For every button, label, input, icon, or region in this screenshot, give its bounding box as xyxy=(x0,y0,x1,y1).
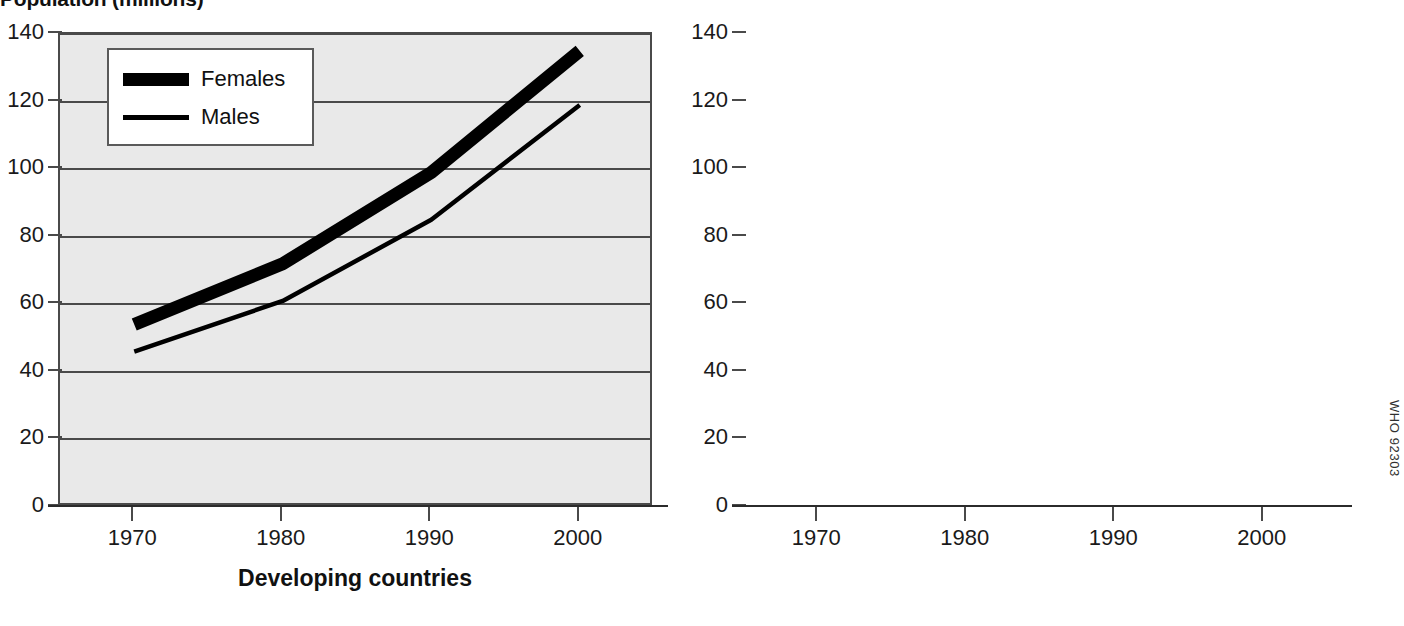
y-tick-mark xyxy=(732,234,746,236)
y-tick-mark xyxy=(732,369,746,371)
y-tick-label: 140 xyxy=(680,21,728,43)
y-tick-label: 80 xyxy=(680,224,728,246)
y-tick-label: 80 xyxy=(0,224,44,246)
x-tick-label: 1970 xyxy=(108,527,157,549)
x-tick-mark xyxy=(577,507,579,521)
y-tick-mark xyxy=(48,99,62,101)
y-tick-mark xyxy=(732,166,746,168)
x-tick-label: 1980 xyxy=(256,527,305,549)
x-tick-mark xyxy=(428,507,430,521)
y-tick-label: 120 xyxy=(0,89,44,111)
y-tick-label: 20 xyxy=(680,426,728,448)
legend-label-males: Males xyxy=(201,106,260,128)
x-tick-label: 2000 xyxy=(553,527,602,549)
y-tick-mark xyxy=(48,31,62,33)
y-tick-mark xyxy=(48,369,62,371)
x-axis-line xyxy=(732,505,1352,507)
y-tick-mark xyxy=(48,301,62,303)
y-tick-label: 40 xyxy=(680,359,728,381)
y-tick-label: 40 xyxy=(0,359,44,381)
y-tick-label: 140 xyxy=(0,21,44,43)
x-tick-mark xyxy=(131,507,133,521)
legend-item-females: Females xyxy=(123,64,285,94)
y-tick-mark xyxy=(732,31,746,33)
legend-item-males: Males xyxy=(123,102,260,132)
y-tick-label: 20 xyxy=(0,426,44,448)
y-tick-label: 60 xyxy=(0,291,44,313)
y-tick-label: 0 xyxy=(0,494,44,516)
x-tick-mark xyxy=(815,507,817,521)
x-tick-label: 1990 xyxy=(1089,527,1138,549)
x-axis-line xyxy=(48,505,668,507)
y-tick-label: 60 xyxy=(680,291,728,313)
y-tick-mark xyxy=(48,436,62,438)
legend-swatch-males-icon xyxy=(123,115,189,120)
y-tick-label: 0 xyxy=(680,494,728,516)
panel-developed: 020406080100120140 1970198019902000 Deve… xyxy=(700,0,1404,626)
x-tick-mark xyxy=(1261,507,1263,521)
x-tick-mark xyxy=(280,507,282,521)
y-tick-mark xyxy=(48,166,62,168)
y-tick-label: 100 xyxy=(0,156,44,178)
y-tick-label: 120 xyxy=(680,89,728,111)
x-tick-label: 1970 xyxy=(792,527,841,549)
panel-caption-developing: Developing countries xyxy=(238,565,472,592)
x-tick-label: 2000 xyxy=(1237,527,1286,549)
panel-developing: 020406080100120140 1970198019902000 Fema… xyxy=(0,0,700,626)
x-tick-mark xyxy=(964,507,966,521)
y-tick-mark xyxy=(48,234,62,236)
x-tick-mark xyxy=(1112,507,1114,521)
legend-label-females: Females xyxy=(201,68,285,90)
y-tick-label: 100 xyxy=(680,156,728,178)
who-credit: WHO 92303 xyxy=(1387,400,1402,477)
y-tick-mark xyxy=(732,301,746,303)
x-tick-label: 1990 xyxy=(405,527,454,549)
x-tick-label: 1980 xyxy=(940,527,989,549)
y-tick-mark xyxy=(732,99,746,101)
legend-swatch-females-icon xyxy=(123,73,189,86)
y-tick-mark xyxy=(732,436,746,438)
legend: Females Males xyxy=(107,48,314,146)
chart-page: Population (millions) 020406080100120140… xyxy=(0,0,1404,626)
